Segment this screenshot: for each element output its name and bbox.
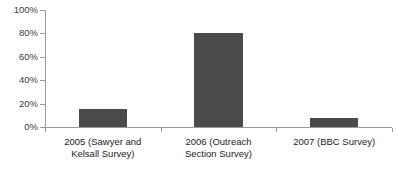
bar [310,118,359,127]
y-axis-tick-label: 40% [0,75,38,85]
x-axis-category-label: 2005 (Sawyer and Kelsall Survey) [45,136,161,159]
bar [79,109,128,127]
x-axis-tick [276,128,277,132]
x-axis-tick [161,128,162,132]
y-axis-tick [40,57,45,58]
y-axis-tick [40,33,45,34]
bar [194,33,243,127]
y-axis-tick [40,104,45,105]
x-axis-category-label: 2006 (Outreach Section Survey) [161,136,277,159]
y-axis-line [45,10,46,128]
bar-chart: 100%80%60%40%20%0% 2005 (Sawyer and Kels… [0,0,398,175]
y-axis-tick [40,10,45,11]
y-axis-tick-label: 20% [0,99,38,109]
y-axis-tick [40,80,45,81]
x-axis-category-label: 2007 (BBC Survey) [276,136,392,148]
x-axis-tick [392,128,393,132]
y-axis-tick-label: 100% [0,5,38,15]
x-axis-tick [45,128,46,132]
y-axis-tick-label: 0% [0,122,38,132]
y-axis-tick-label: 80% [0,29,38,39]
y-axis-tick-label: 60% [0,52,38,62]
x-axis-line [45,127,392,128]
